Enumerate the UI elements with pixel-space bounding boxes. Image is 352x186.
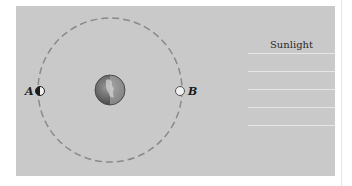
orbit-diagram: A B Sunlight (0, 0, 352, 186)
moon-a-label: A (24, 85, 34, 98)
moon-b-icon (176, 87, 185, 96)
moon-a-icon (36, 87, 45, 96)
moon-b-label: B (187, 85, 197, 98)
sunlight-rays (248, 54, 335, 126)
earth-icon (95, 75, 125, 105)
sunlight-label: Sunlight (270, 39, 313, 50)
